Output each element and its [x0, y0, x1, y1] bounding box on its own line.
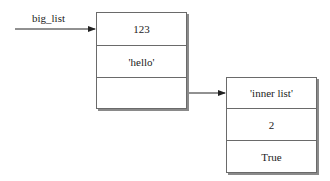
outer-list-cell-2 [97, 77, 186, 108]
outer-list-cell-0: 123 [97, 13, 186, 45]
outer-list-cell-1: 'hello' [97, 45, 186, 77]
inner-list-cell-0: 'inner list' [227, 78, 316, 108]
inner-list-cell-2: True [227, 140, 316, 172]
inner-list-box: 'inner list' 2 True [226, 77, 317, 173]
variable-label-big-list: big_list [32, 12, 65, 24]
outer-list-box: 123 'hello' [96, 12, 187, 109]
inner-list-cell-1: 2 [227, 108, 316, 140]
